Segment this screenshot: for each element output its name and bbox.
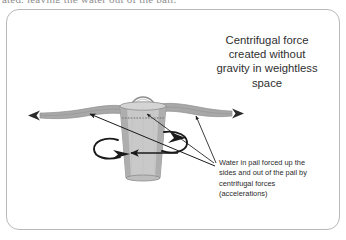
- caption-line-1: Water in pail forced up the: [219, 158, 337, 168]
- heading-text: Centrifugal force created without gravit…: [196, 33, 338, 90]
- heading-line-2: created without: [196, 47, 338, 61]
- heading-line-4: space: [196, 76, 338, 90]
- pail: [120, 102, 166, 181]
- caption-line-2: sides and out of the pail by: [219, 168, 337, 178]
- heading-line-1: Centrifugal force: [196, 33, 338, 47]
- caption-line-4: (accelerations): [219, 189, 337, 199]
- caption-pointer-right: [196, 116, 216, 163]
- water-stream-right: [160, 103, 244, 118]
- water-stream-left: [28, 105, 124, 120]
- caption-text: Water in pail forced up the sides and ou…: [219, 158, 337, 200]
- heading-line-3: gravity in weightless: [196, 61, 338, 75]
- slide-canvas: ated, leaving the water out of the pail.: [0, 0, 346, 240]
- caption-line-3: centrifugal forces: [219, 179, 337, 189]
